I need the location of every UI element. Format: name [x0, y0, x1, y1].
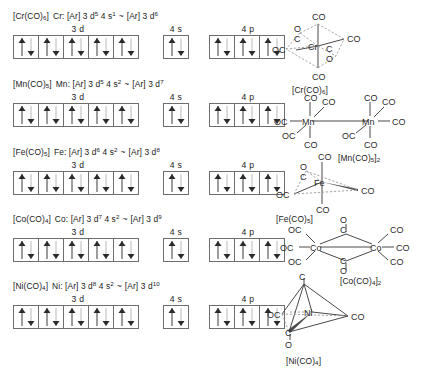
orbital-box-cr-4s-1[interactable]: [163, 35, 189, 59]
down-arrow-icon: [102, 37, 110, 57]
orbital-box-co-4p-2[interactable]: [234, 238, 260, 262]
orbital-box-fe-3d-5[interactable]: [113, 171, 139, 195]
orbital-electrons: [39, 172, 63, 194]
orbital-box-cr-3d-5[interactable]: [113, 35, 139, 59]
orbital-box-mn-4s-1[interactable]: [163, 103, 189, 127]
orbital-electrons: [89, 104, 113, 126]
orbital-box-ni-3d-4[interactable]: [88, 305, 114, 329]
co-l-oc-upper: OC: [288, 225, 302, 235]
orbital-box-fe-4s-1[interactable]: [163, 171, 189, 195]
orbital-label-3d: 3 d: [13, 294, 143, 305]
orbital-box-fe-3d-2[interactable]: [38, 171, 64, 195]
structure-column: CO O C OC CO C O CO Cr [Cr(CO)6]: [262, 0, 436, 369]
cr-ligand-o-lowerright: O: [326, 54, 333, 64]
orbital-box-cr-3d-2[interactable]: [38, 35, 64, 59]
orbital-box-ni-3d-1[interactable]: [13, 305, 39, 329]
orbital-box-set-3d: [13, 171, 143, 195]
orbital-electrons: [210, 306, 234, 328]
up-arrow-icon: [214, 173, 222, 193]
orbital-box-fe-3d-4[interactable]: [88, 171, 114, 195]
orbital-box-co-3d-5[interactable]: [113, 238, 139, 262]
down-arrow-icon: [248, 105, 256, 125]
electron-configuration-column: [Cr(CO)6]Cr: [Ar] 3 d5 4 s1~[Ar] 3 d63 d…: [0, 0, 268, 369]
orbital-electrons: [210, 239, 234, 261]
orbital-box-co-3d-3[interactable]: [63, 238, 89, 262]
orbital-box-cr-3d-4[interactable]: [88, 35, 114, 59]
up-arrow-icon: [43, 240, 51, 260]
orbital-electrons: [89, 239, 113, 261]
up-arrow-icon: [18, 37, 26, 57]
orbital-box-co-4s-1[interactable]: [163, 238, 189, 262]
orbital-label-4s: 4 s: [163, 160, 189, 171]
down-arrow-icon: [77, 307, 85, 327]
orbital-box-fe-4p-1[interactable]: [209, 171, 235, 195]
orbital-box-ni-3d-5[interactable]: [113, 305, 139, 329]
mn-l-co-bottom: CO: [304, 140, 318, 150]
orbital-electrons: [14, 36, 38, 58]
down-arrow-icon: [248, 307, 256, 327]
up-arrow-icon: [68, 240, 76, 260]
down-arrow-icon: [127, 105, 135, 125]
orbital-electrons: [114, 36, 138, 58]
orbital-box-cr-3d-3[interactable]: [63, 35, 89, 59]
up-arrow-icon: [18, 173, 26, 193]
orbital-electrons: [114, 239, 138, 261]
orbital-box-mn-3d-5[interactable]: [113, 103, 139, 127]
orbital-box-cr-3d-1[interactable]: [13, 35, 39, 59]
orbital-box-mn-3d-4[interactable]: [88, 103, 114, 127]
fe-ligand-co-right: CO: [361, 186, 375, 196]
orbital-box-ni-3d-2[interactable]: [38, 305, 64, 329]
orbital-box-ni-4p-1[interactable]: [209, 305, 235, 329]
orbital-strip-ni: 3 d4 s4 p: [0, 294, 268, 336]
up-arrow-icon: [68, 173, 76, 193]
orbital-box-cr-4p-2[interactable]: [234, 35, 260, 59]
ni-ligand-c-top: C: [299, 272, 306, 282]
down-arrow-icon: [52, 37, 60, 57]
cr-ligand-co-right: CO: [347, 34, 361, 44]
orbital-box-mn-3d-2[interactable]: [38, 103, 64, 127]
orbital-box-co-4p-1[interactable]: [209, 238, 235, 262]
orbital-box-co-3d-4[interactable]: [88, 238, 114, 262]
fe-ligand-co-top: CO: [318, 152, 332, 162]
orbital-label-3d: 3 d: [13, 227, 143, 238]
orbital-group-4s-mn: 4 s: [163, 92, 189, 127]
down-arrow-icon: [27, 37, 35, 57]
orbital-box-mn-4p-1[interactable]: [209, 103, 235, 127]
orbital-electrons: [89, 172, 113, 194]
down-arrow-icon: [223, 173, 231, 193]
orbital-group-3d-cr: 3 d: [13, 24, 143, 59]
orbital-label-3d: 3 d: [13, 92, 143, 103]
orbital-box-mn-3d-3[interactable]: [63, 103, 89, 127]
orbital-electrons: [39, 104, 63, 126]
up-arrow-icon: [93, 173, 101, 193]
cr-ligand-co-top: CO: [312, 12, 326, 22]
orbital-box-co-3d-1[interactable]: [13, 238, 39, 262]
co-r-co-mid: CO: [396, 243, 410, 253]
orbital-label-4s: 4 s: [163, 227, 189, 238]
orbital-box-ni-3d-3[interactable]: [63, 305, 89, 329]
orbital-box-co-3d-2[interactable]: [38, 238, 64, 262]
orbital-box-fe-3d-3[interactable]: [63, 171, 89, 195]
orbital-electrons: [64, 239, 88, 261]
down-arrow-icon: [102, 105, 110, 125]
config-row-co: [Co(CO)4]Co: [Ar] 3 d7 4 s2~[Ar] 3 d93 d…: [0, 211, 268, 269]
complex-formula: [Fe(CO)5]: [13, 147, 50, 157]
ni-ligand-c-bottom: C: [285, 328, 292, 338]
orbital-box-mn-3d-1[interactable]: [13, 103, 39, 127]
ni-caption: [Ni(CO)4]: [286, 356, 321, 366]
orbital-box-fe-3d-1[interactable]: [13, 171, 39, 195]
orbital-box-fe-4p-2[interactable]: [234, 171, 260, 195]
orbital-electrons: [235, 239, 259, 261]
orbital-label-3d: 3 d: [13, 160, 143, 171]
orbital-box-ni-4s-1[interactable]: [163, 305, 189, 329]
co-r-co-lower: CO: [390, 257, 404, 267]
config-header-co: [Co(CO)4]Co: [Ar] 3 d7 4 s2~[Ar] 3 d9: [0, 211, 268, 226]
orbital-box-mn-4p-2[interactable]: [234, 103, 260, 127]
up-arrow-icon: [239, 240, 247, 260]
config-row-fe: [Fe(CO)5]Fe: [Ar] 3 d6 4 s2~[Ar] 3 d83 d…: [0, 144, 268, 202]
down-arrow-icon: [248, 240, 256, 260]
orbital-box-cr-4p-1[interactable]: [209, 35, 235, 59]
fe-structure-svg: CO O C OC CO CO Fe: [276, 152, 392, 214]
orbital-box-ni-4p-2[interactable]: [234, 305, 260, 329]
orbital-label-3d: 3 d: [13, 24, 143, 35]
